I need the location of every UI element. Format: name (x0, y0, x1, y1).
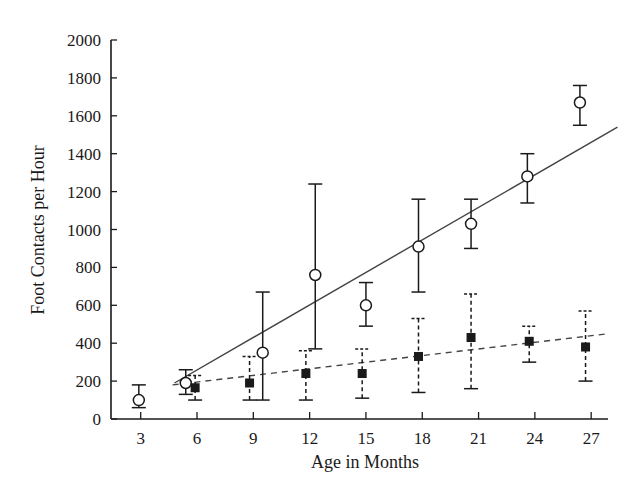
y-tick-label: 1400 (67, 145, 101, 164)
filled-squares-fit-line (173, 334, 608, 385)
x-tick-label: 24 (526, 429, 544, 448)
filled-square-marker (525, 337, 534, 346)
open-circles-fit-line (174, 127, 617, 383)
open-circle-marker (466, 218, 477, 229)
y-tick-label: 800 (76, 258, 102, 277)
y-tick-label: 1600 (67, 107, 101, 126)
open-circle-marker (180, 377, 191, 388)
y-tick-label: 1200 (67, 183, 101, 202)
open-circle-marker (360, 300, 371, 311)
y-tick-label: 400 (76, 334, 102, 353)
x-tick-label: 15 (357, 429, 374, 448)
x-tick-label: 6 (193, 429, 202, 448)
filled-square-marker (301, 369, 310, 378)
x-tick-label: 9 (249, 429, 258, 448)
fit-lines (173, 127, 618, 385)
filled-square-marker (358, 369, 367, 378)
filled-square-marker (191, 383, 200, 392)
open-circle-marker (133, 395, 144, 406)
y-tick-label: 1000 (67, 221, 101, 240)
y-tick-label: 600 (76, 296, 102, 315)
open-circle-marker (413, 241, 424, 252)
filled-square-marker (467, 333, 476, 342)
x-tick-label: 12 (301, 429, 318, 448)
axes: 0200400600800100012001400160018002000369… (67, 31, 608, 448)
y-tick-label: 0 (93, 410, 102, 429)
open-circle-marker (257, 347, 268, 358)
filled-square-marker (414, 352, 423, 361)
error-bars (132, 85, 593, 407)
y-tick-label: 2000 (67, 31, 101, 50)
open-circle-marker (310, 269, 321, 280)
y-tick-label: 1800 (67, 69, 101, 88)
x-tick-label: 18 (414, 429, 431, 448)
open-circle-marker (522, 171, 533, 182)
x-tick-label: 3 (136, 429, 145, 448)
filled-square-marker (245, 378, 254, 387)
x-axis-title: Age in Months (311, 452, 419, 472)
x-tick-label: 27 (583, 429, 601, 448)
y-tick-label: 200 (76, 372, 102, 391)
x-tick-label: 21 (470, 429, 487, 448)
y-axis-title: Foot Contacts per Hour (28, 145, 48, 314)
chart-canvas: 0200400600800100012001400160018002000369… (0, 0, 637, 489)
open-circle-marker (574, 97, 585, 108)
filled-square-marker (581, 342, 590, 351)
